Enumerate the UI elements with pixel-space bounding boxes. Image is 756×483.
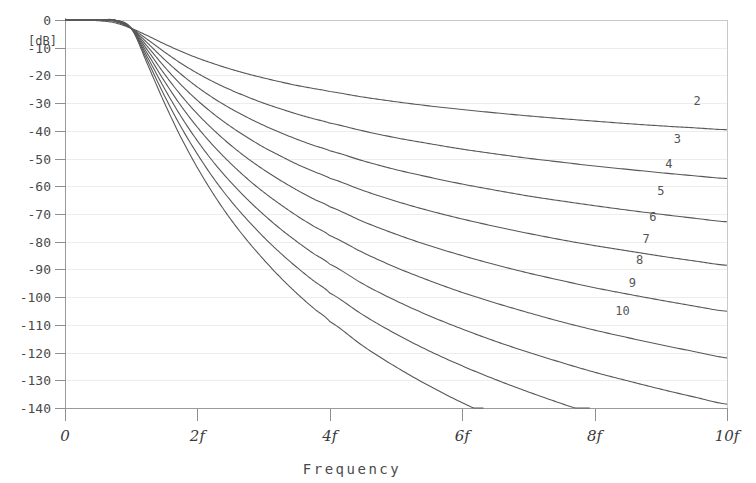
y-tick-label: -110	[20, 318, 51, 333]
y-tick-label: -40	[28, 124, 51, 139]
y-tick-label: 0	[43, 13, 51, 28]
curve-label-9: 9	[629, 276, 636, 290]
y-tick-label: -120	[20, 346, 51, 361]
curve-label-7: 7	[643, 232, 650, 246]
curve-label-6: 6	[649, 210, 656, 224]
grid-lines	[65, 49, 727, 381]
curve-label-10: 10	[615, 304, 629, 318]
curve-label-3: 3	[674, 132, 681, 146]
curve-order-8	[65, 19, 727, 404]
curve-label-8: 8	[636, 253, 643, 267]
y-tick-label: -130	[20, 373, 51, 388]
x-axis-title: Frequency	[303, 461, 401, 477]
data-curves	[65, 19, 727, 408]
filter-attenuation-chart: 0-10-20-30-40-50-60-70-80-90-100-110-120…	[0, 0, 756, 483]
x-tick-label: 6f	[455, 427, 473, 445]
x-tick-label: 8f	[587, 427, 605, 445]
y-tick-label: -30	[28, 96, 51, 111]
curve-label-5: 5	[657, 184, 664, 198]
curve-label-4: 4	[665, 157, 672, 171]
curve-order-9	[65, 19, 590, 408]
x-tick-label: 2f	[189, 427, 208, 445]
chart-container: 0-10-20-30-40-50-60-70-80-90-100-110-120…	[0, 0, 756, 483]
y-tick-label: -60	[28, 179, 51, 194]
y-tick-label: -140	[20, 401, 51, 416]
y-tick-label: -100	[20, 290, 51, 305]
curve-order-2	[65, 20, 727, 130]
tick-marks	[55, 21, 728, 422]
y-tick-label: -70	[28, 207, 51, 222]
y-tick-label: -90	[28, 262, 51, 277]
y-tick-label: -20	[28, 68, 51, 83]
y-axis-tick-labels: 0-10-20-30-40-50-60-70-80-90-100-110-120…	[20, 13, 51, 416]
x-tick-label: 10f	[715, 427, 742, 445]
curve-label-2: 2	[694, 94, 701, 108]
y-tick-label: -50	[28, 152, 51, 167]
curve-order-10	[65, 19, 483, 408]
y-axis-unit-label: [dB]	[28, 34, 57, 48]
x-axis-tick-labels: 02f4f6f8f10f	[60, 427, 742, 445]
curve-order-5	[65, 20, 727, 266]
y-tick-label: -80	[28, 235, 51, 250]
curve-order-4	[65, 20, 727, 222]
plot-frame	[57, 18, 728, 416]
x-tick-label: 0	[60, 427, 70, 445]
x-tick-label: 4f	[321, 427, 340, 445]
